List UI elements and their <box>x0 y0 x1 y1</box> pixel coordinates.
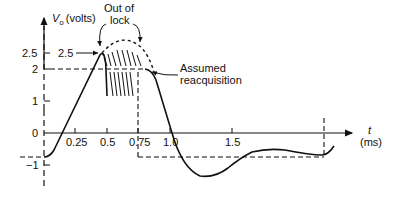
y-tick-neg1: −1 <box>26 159 39 171</box>
waveform-diagram: Vo(volts) 2.5 2 1 0 −1 0.25 0.5 0.75 1.0… <box>0 0 400 198</box>
x-tick-1.5: 1.5 <box>225 136 240 148</box>
reacquisition-label-1: Assumed <box>180 62 226 74</box>
out-of-lock-label-2: lock <box>110 14 130 26</box>
x-tick-0.75: 0.75 <box>129 136 150 148</box>
x-tick-0.25: 0.25 <box>66 136 87 148</box>
x-axis-label: t <box>368 124 372 136</box>
out-of-lock-pointer-left <box>100 24 106 46</box>
x-axis-units: (ms) <box>360 136 382 148</box>
y-tick-0: 0 <box>32 127 38 139</box>
reacquisition-label-2: reacquisition <box>180 74 242 86</box>
y-tick-2.5: 2.5 <box>22 47 37 59</box>
out-of-lock-label-1: Out of <box>104 2 135 14</box>
y-tick-1: 1 <box>32 95 38 107</box>
y-axis-label: Vo(volts) <box>52 12 96 27</box>
x-tick-0.5: 0.5 <box>100 136 115 148</box>
x-axis <box>44 128 352 133</box>
y-axis <box>44 18 50 186</box>
reacquisition-pointer <box>152 72 178 75</box>
peak-label: 2.5 <box>58 47 73 59</box>
hatched-region <box>104 50 141 96</box>
y-tick-2: 2 <box>32 63 38 75</box>
out-of-lock-pointer-right <box>133 24 140 42</box>
